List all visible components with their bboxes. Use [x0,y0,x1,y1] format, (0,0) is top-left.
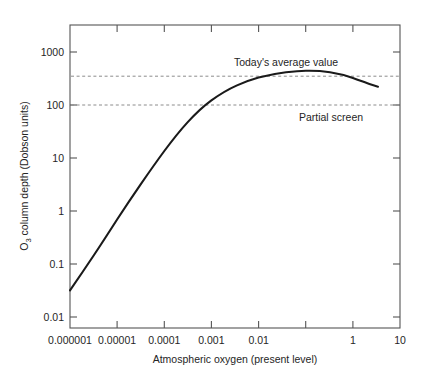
x-tick-label-1e-6: 0.000001 [48,334,92,346]
y-tick-label-1: 1 [58,205,64,217]
y-axis-title-text: column depth (Dobson units) [18,101,30,238]
x-tick-label-1e-5: 0.00001 [98,334,136,346]
x-tick-label-1e-2: 0.01 [248,334,269,346]
x-tick-label-1e-4: 0.0001 [148,334,180,346]
chart-svg: 1000 100 10 1 0.1 0.01 0.000001 0.00001 [0,0,424,382]
ozone-column-depth-chart: 1000 100 10 1 0.1 0.01 0.000001 0.00001 [0,0,424,382]
annotation-partial-screen: Partial screen [299,111,363,123]
y-tick-label-100: 100 [46,99,64,111]
y-tick-label-10: 10 [52,152,64,164]
x-tick-label-10: 10 [394,334,406,346]
x-tick-label-1e-3: 0.001 [198,334,224,346]
x-axis-title: Atmospheric oxygen (present level) [153,353,318,365]
y-axis-title-symbol: O [18,243,30,251]
y-tick-label-0.1: 0.1 [49,258,64,270]
y-tick-label-1000: 1000 [41,46,65,58]
y-tick-label-0.01: 0.01 [44,311,65,323]
annotation-todays-average-value: Today's average value [234,56,338,68]
x-tick-label-1: 1 [350,334,356,346]
